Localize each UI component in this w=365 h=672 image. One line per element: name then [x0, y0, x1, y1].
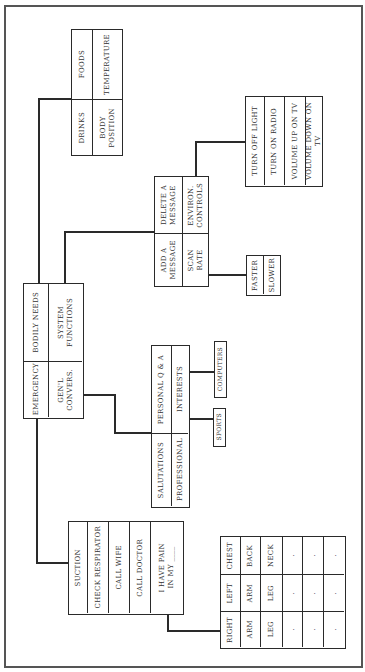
menu-cell-scan-rate: SCAN RATE	[182, 233, 208, 286]
connector-line	[83, 394, 114, 396]
menu-cell-bodily-needs: BODILY NEEDS	[24, 284, 48, 361]
cell-label: BACK	[246, 545, 255, 567]
cell-label: VOLUME DOWN ON TV	[305, 97, 322, 185]
main-menu: BODILY NEEDS EMERGENCY SYSTEM FUNCTIONS …	[23, 283, 84, 419]
cell-label: .	[309, 592, 318, 595]
menu-cell-env-3: VOLUME DOWN ON TV	[305, 97, 322, 185]
cell-label: DRINKS	[78, 112, 87, 144]
menu-cell-emergency: EMERGENCY	[24, 361, 48, 417]
cell-label: ADD A MESSAGE	[160, 240, 178, 280]
menu-cell-env-1: TURN ON RADIO	[264, 97, 284, 185]
connector-line	[167, 630, 221, 632]
menu-cell-delete-message: DELETE A MESSAGE	[155, 177, 182, 233]
grid-cell: RIGHT	[221, 611, 240, 647]
cell-label: SPORTS	[215, 413, 223, 440]
cell-label: GEN'L CONVERS.	[57, 369, 75, 411]
cell-label: TURN OFF LIGHT	[251, 106, 260, 176]
menu-cell-suction: SUCTION	[69, 522, 87, 613]
cell-label: .	[330, 554, 339, 557]
cell-label: .	[309, 554, 318, 557]
cell-label: .	[288, 592, 297, 595]
menu-cell-pain: I HAVE PAIN IN MY ____	[150, 522, 182, 613]
grid-cell: .	[302, 574, 323, 611]
cell-label: RIGHT	[226, 617, 235, 643]
grid-cell: LEG	[260, 611, 282, 647]
environ-controls-menu: TURN OFF LIGHT TURN ON RADIO VOLUME UP O…	[245, 96, 323, 187]
menu-cell-env-2: VOLUME UP ON TV	[284, 97, 305, 185]
menu-cell-drinks: DRINKS	[72, 99, 92, 155]
cell-label: VOLUME UP ON TV	[291, 103, 300, 180]
cell-label: PROFESSIONAL	[176, 438, 185, 501]
connector-line	[38, 98, 72, 100]
menu-cell-personal-qa: PERSONAL Q & A	[152, 346, 171, 433]
connector-line	[208, 274, 246, 276]
cell-label: BODILY NEEDS	[32, 292, 41, 353]
cell-label: TEMPERATURE	[103, 34, 112, 95]
cell-label: INTERESTS	[176, 366, 185, 412]
grid-cell: ARM	[240, 574, 260, 611]
grid-cell: .	[282, 537, 302, 574]
cell-label: NECK	[267, 544, 276, 567]
cell-label: I HAVE PAIN IN MY ____	[158, 543, 176, 593]
grid-cell: LEG	[260, 574, 282, 611]
menu-cell-env-0: TURN OFF LIGHT	[246, 97, 264, 185]
cell-label: LEFT	[226, 583, 235, 603]
cell-label: .	[330, 592, 339, 595]
bodily-needs-menu: FOODS DRINKS TEMPERATURE BODY POSITION	[71, 29, 123, 156]
cell-label: .	[309, 628, 318, 631]
grid-cell: .	[302, 611, 323, 647]
conversation-menu: PERSONAL Q & A SALUTATIONS INTERESTS PRO…	[151, 345, 190, 508]
menu-cell-call-wife: CALL WIFE	[108, 522, 129, 613]
cell-label: DELETE A MESSAGE	[160, 185, 178, 225]
system-functions-menu: DELETE A MESSAGE ADD A MESSAGE ENVIRON. …	[154, 176, 209, 287]
cell-label: COMPUTERS	[216, 347, 224, 391]
grid-cell: .	[282, 611, 302, 647]
cell-label: .	[288, 628, 297, 631]
connector-line	[167, 614, 169, 631]
connector-line	[38, 98, 40, 283]
menu-cell-temperature: TEMPERATURE	[92, 30, 122, 99]
cell-label: SYSTEM FUNCTIONS	[57, 298, 75, 347]
menu-cell-general-conversations: GEN'L CONVERS.	[48, 361, 82, 417]
menu-cell-salutations: SALUTATIONS	[152, 433, 171, 506]
grid-cell: .	[302, 537, 323, 574]
cell-label: CHEST	[226, 542, 235, 570]
cell-label: TURN ON RADIO	[270, 108, 279, 175]
cell-label: ARM	[246, 584, 255, 602]
menu-cell-faster: FASTER	[247, 256, 263, 294]
connector-line	[64, 231, 66, 283]
cell-label: LEG	[267, 585, 276, 601]
grid-cell: LEFT	[221, 574, 240, 611]
cell-label: LEG	[267, 621, 276, 637]
cell-label: FOODS	[78, 50, 87, 78]
cell-label: ARM	[246, 620, 255, 638]
cell-label: EMERGENCY	[32, 363, 41, 415]
grid-cell: .	[323, 611, 344, 647]
menu-cell-foods: FOODS	[72, 30, 92, 99]
connector-line	[189, 371, 214, 373]
menu-cell-computers: COMPUTERS	[215, 342, 225, 396]
connector-line	[36, 418, 38, 563]
menu-cell-professional: PROFESSIONAL	[171, 433, 188, 506]
sports-box: SPORTS	[213, 408, 226, 447]
cell-label: CALL DOCTOR	[136, 539, 145, 597]
cell-label: SALUTATIONS	[157, 442, 166, 498]
menu-cell-body-position: BODY POSITION	[92, 99, 122, 155]
connector-line	[114, 432, 152, 434]
cell-label: SUCTION	[74, 549, 83, 586]
grid-cell: .	[323, 574, 344, 611]
connector-line	[36, 562, 69, 564]
menu-cell-call-doctor: CALL DOCTOR	[129, 522, 150, 613]
grid-cell: ARM	[240, 611, 260, 647]
menu-cell-interests: INTERESTS	[171, 346, 188, 433]
cell-label: FASTER	[251, 260, 260, 291]
scan-rate-menu: FASTER SLOWER	[246, 255, 281, 296]
connector-line	[114, 394, 116, 433]
connector-line	[64, 231, 155, 233]
menu-cell-add-message: ADD A MESSAGE	[155, 233, 182, 286]
cell-label: BODY POSITION	[99, 108, 117, 148]
cell-label: .	[288, 554, 297, 557]
cell-label: CHECK RESPIRATOR	[94, 526, 103, 608]
computers-box: COMPUTERS	[214, 341, 227, 398]
connector-line	[195, 141, 197, 177]
